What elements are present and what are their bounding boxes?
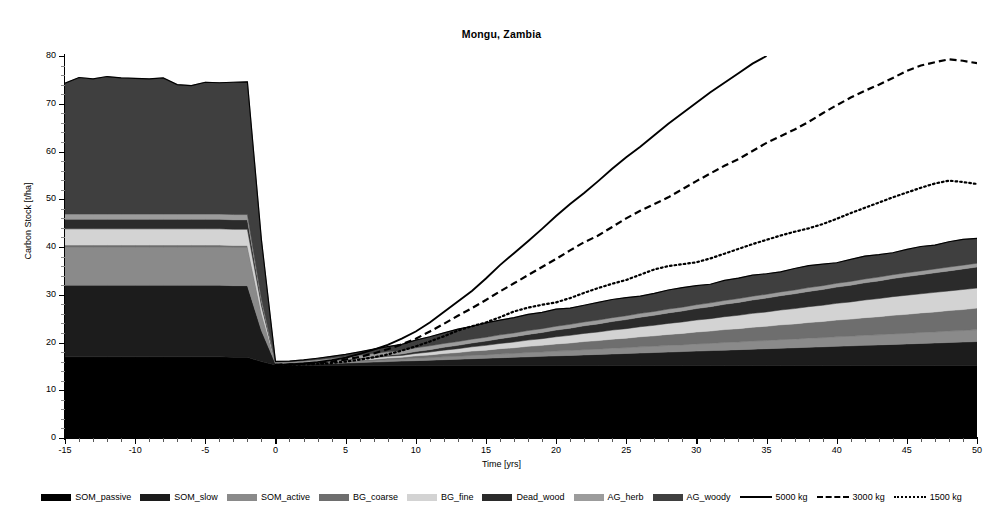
x-tick-minor-mark [430, 438, 431, 442]
legend-swatch-icon [227, 494, 257, 501]
x-tick-minor-mark [107, 438, 108, 442]
x-tick-minor-mark [332, 438, 333, 442]
x-tick-mark [346, 438, 347, 444]
x-tick-minor-mark [191, 438, 192, 442]
x-tick-minor-mark [963, 438, 964, 442]
x-tick-minor-mark [304, 438, 305, 442]
legend-item-label: SOM_active [261, 492, 310, 502]
x-tick-minor-mark [809, 438, 810, 442]
legend-item[interactable]: 5000 kg [740, 492, 808, 502]
x-tick-minor-mark [949, 438, 950, 442]
plot-area [65, 56, 977, 438]
x-tick-minor-mark [374, 438, 375, 442]
legend-swatch-icon [407, 494, 437, 501]
x-tick-mark [135, 438, 136, 444]
legend-item-label: 5000 kg [776, 492, 808, 502]
legend-item[interactable]: AG_herb [574, 492, 644, 502]
x-tick-minor-mark [247, 438, 248, 442]
legend-line-icon [817, 496, 849, 498]
x-tick-minor-mark [753, 438, 754, 442]
x-tick-minor-mark [682, 438, 683, 442]
plot-svg [65, 56, 977, 438]
x-tick-minor-mark [528, 438, 529, 442]
x-tick-minor-mark [640, 438, 641, 442]
legend-item[interactable]: SOM_active [227, 492, 310, 502]
y-tick-label: 30 [18, 289, 56, 299]
legend-item[interactable]: SOM_passive [41, 492, 131, 502]
legend-item-label: AG_herb [608, 492, 644, 502]
x-tick-label: 25 [606, 445, 646, 455]
legend-item-label: AG_woody [687, 492, 731, 502]
x-tick-label: 5 [326, 445, 366, 455]
x-tick-minor-mark [570, 438, 571, 442]
legend-swatch-icon [319, 494, 349, 501]
y-axis-title: Carbon Stock [t/ha] [23, 151, 33, 291]
legend-item[interactable]: BG_fine [407, 492, 474, 502]
x-tick-label: 50 [957, 445, 997, 455]
legend-item[interactable]: BG_coarse [319, 492, 398, 502]
x-tick-minor-mark [163, 438, 164, 442]
x-tick-minor-mark [149, 438, 150, 442]
legend-swatch-icon [140, 494, 170, 501]
x-tick-label: 15 [466, 445, 506, 455]
legend-item[interactable]: Dead_wood [482, 492, 564, 502]
legend-item[interactable]: SOM_slow [140, 492, 218, 502]
y-tick-label: 10 [18, 384, 56, 394]
x-tick-minor-mark [781, 438, 782, 442]
x-tick-minor-mark [612, 438, 613, 442]
carbon-stock-chart: Mongu, Zambia Carbon Stock [t/ha] 010203… [0, 0, 1003, 514]
chart-title: Mongu, Zambia [0, 28, 1003, 40]
x-tick-label: 35 [747, 445, 787, 455]
x-tick-minor-mark [935, 438, 936, 442]
x-tick-label: -5 [185, 445, 225, 455]
x-tick-minor-mark [893, 438, 894, 442]
y-tick-label: 60 [18, 146, 56, 156]
y-tick-label: 0 [18, 432, 56, 442]
x-tick-minor-mark [472, 438, 473, 442]
legend-swatch-icon [482, 494, 512, 501]
x-tick-minor-mark [795, 438, 796, 442]
x-tick-minor-mark [219, 438, 220, 442]
legend-item-label: Dead_wood [516, 492, 564, 502]
legend-swatch-icon [41, 494, 71, 501]
x-tick-mark [205, 438, 206, 444]
x-tick-label: 40 [817, 445, 857, 455]
legend-item-label: 1500 kg [930, 492, 962, 502]
y-tick-label: 40 [18, 241, 56, 251]
x-tick-minor-mark [93, 438, 94, 442]
x-tick-minor-mark [261, 438, 262, 442]
x-tick-mark [626, 438, 627, 444]
x-tick-label: 20 [536, 445, 576, 455]
x-tick-minor-mark [458, 438, 459, 442]
x-tick-minor-mark [598, 438, 599, 442]
x-tick-minor-mark [654, 438, 655, 442]
x-tick-mark [416, 438, 417, 444]
legend-item[interactable]: AG_woody [653, 492, 731, 502]
legend-swatch-icon [653, 494, 683, 501]
x-tick-label: 0 [255, 445, 295, 455]
x-tick-minor-mark [921, 438, 922, 442]
x-tick-mark [977, 438, 978, 444]
x-tick-mark [837, 438, 838, 444]
x-tick-minor-mark [668, 438, 669, 442]
legend-item[interactable]: 3000 kg [817, 492, 885, 502]
area-series-som_passive [65, 357, 977, 438]
y-tick-label: 50 [18, 193, 56, 203]
y-tick-label: 20 [18, 337, 56, 347]
legend-item-label: 3000 kg [853, 492, 885, 502]
x-tick-minor-mark [710, 438, 711, 442]
x-tick-mark [556, 438, 557, 444]
x-tick-minor-mark [177, 438, 178, 442]
x-axis-line [64, 437, 978, 439]
x-tick-minor-mark [318, 438, 319, 442]
x-tick-minor-mark [121, 438, 122, 442]
x-axis-title: Time [yrs] [0, 459, 1003, 469]
legend-item[interactable]: 1500 kg [894, 492, 962, 502]
x-tick-minor-mark [388, 438, 389, 442]
legend-item-label: BG_fine [441, 492, 474, 502]
x-tick-minor-mark [542, 438, 543, 442]
legend-item-label: SOM_slow [174, 492, 218, 502]
x-tick-mark [65, 438, 66, 444]
x-tick-minor-mark [514, 438, 515, 442]
legend-line-icon [740, 496, 772, 498]
